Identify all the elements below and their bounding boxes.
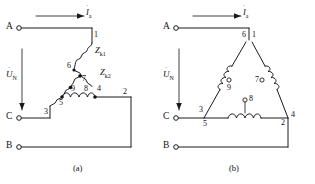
current-subscript-b: a: [246, 13, 249, 19]
coil-bottom-delta-b: [228, 114, 261, 118]
terminal-label-a-panel-a: A: [6, 22, 13, 32]
node-label-3-panel-a: 3: [44, 108, 48, 116]
voltage-subscript-a: N: [13, 75, 17, 81]
node-label-8-panel-a: 8: [84, 85, 88, 93]
terminal-a-symbol: [17, 26, 22, 31]
panel-b-wires: [174, 13, 288, 149]
node-label-1-panel-b: 1: [252, 31, 256, 39]
wire-rightcoil-to-node4-b: [277, 90, 288, 119]
wire-apex-to-leftcoil-b: [232, 42, 246, 66]
panel-caption-b: (b): [229, 164, 239, 173]
current-label-panel-a: ˙Ia: [86, 8, 92, 19]
terminal-b-symbol-b: [174, 145, 179, 150]
current-dot-a: ˙: [86, 4, 88, 11]
terminal-a-symbol-b: [174, 26, 179, 31]
node-label-2-panel-b: 2: [281, 119, 285, 127]
current-arrow-head-b: [234, 13, 241, 19]
voltage-label-panel-a: ˙UN: [6, 70, 17, 81]
node-label-7-panel-b: 7: [255, 76, 259, 84]
current-label-panel-b: ˙Ia: [243, 8, 249, 19]
node-label-9-panel-b: 9: [227, 84, 231, 92]
node-label-2-panel-a: 2: [123, 88, 127, 96]
voltage-label-panel-b: ˙UN: [163, 70, 174, 81]
node-label-3-panel-b: 3: [199, 106, 203, 114]
junction-node-6-a: [72, 68, 75, 71]
node-label-8-panel-b: 8: [249, 95, 253, 103]
voltage-arrow-head-a: [19, 103, 25, 110]
current-dot-b: ˙: [243, 4, 245, 11]
node-label-9-panel-a: 9: [71, 85, 75, 93]
voltage-subscript-b: N: [170, 75, 174, 81]
terminal-c-symbol-a: [17, 116, 22, 121]
voltage-dot-b: ˙: [165, 66, 167, 73]
impedance-label-zk1: Zk1: [95, 46, 106, 57]
node-label-6-panel-a: 6: [67, 62, 71, 70]
voltage-arrow-head-b: [176, 103, 182, 110]
terminal-b-symbol-a: [17, 145, 22, 150]
node-label-4-panel-b: 4: [291, 111, 295, 119]
node-label-6-panel-b: 6: [242, 31, 246, 39]
impedance-subscript-zk1: k1: [100, 51, 106, 57]
terminal-c-symbol-b: [174, 116, 179, 121]
terminal-label-c-panel-b: C: [163, 112, 169, 122]
coil-zk1-a: [74, 43, 92, 70]
impedance-subscript-zk2: k2: [105, 73, 111, 79]
current-arrow-head-a: [77, 13, 84, 19]
node-label-5-panel-a: 5: [59, 99, 63, 107]
voltage-dot-a: ˙: [8, 66, 10, 73]
tap-node-7-b: [260, 78, 264, 82]
tap-node-8-b: [243, 98, 247, 102]
coil-9-to-5-a: [62, 88, 71, 98]
terminal-label-b-panel-a: B: [6, 141, 12, 151]
node-label-7-panel-a: 7: [82, 75, 86, 83]
coil-5-to-4-a: [62, 93, 95, 97]
coil-right-delta-b: [265, 66, 279, 90]
junction-node-4-a: [93, 95, 97, 99]
panel-a-wires: [17, 13, 131, 149]
node-label-4-panel-a: 4: [97, 85, 101, 93]
terminal-label-b-panel-b: B: [163, 141, 169, 151]
tap-node-9-b: [227, 78, 231, 82]
impedance-label-zk2: Zk2: [100, 68, 111, 79]
node-label-5-panel-b: 5: [203, 120, 207, 128]
figure-root: A C B ˙Ia ˙UN Zk1 Zk2 1 2 3 4 5 6 7 8 9 …: [0, 0, 315, 184]
panel-caption-a: (a): [73, 164, 82, 173]
node-label-1-panel-a: 1: [94, 31, 98, 39]
terminal-label-c-panel-a: C: [6, 112, 12, 122]
wire-leftcoil-to-node3-b: [204, 90, 220, 119]
panel-a-schematic: [0, 0, 315, 184]
current-subscript-a: a: [89, 13, 92, 19]
wire-apex-to-rightcoil-b: [252, 42, 265, 66]
terminal-label-a-panel-b: A: [163, 22, 170, 32]
